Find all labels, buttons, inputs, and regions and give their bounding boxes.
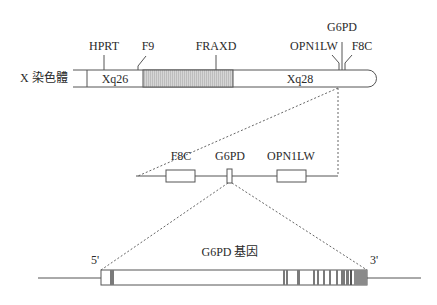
x-chromosome: Xq26 Xq28 [73, 70, 377, 87]
gene-markers: HPRT F9 FRAXD OPN1LW G6PD F8C [89, 20, 372, 70]
region-label-f8c: F8C [171, 149, 192, 163]
g6pd-gene-structure: G6PD 基因 5' 3' [38, 245, 421, 285]
gene-box-g6pd [227, 169, 232, 183]
region-label-opn1lw: OPN1LW [267, 149, 315, 163]
three-prime-label: 3' [370, 253, 378, 267]
marker-fraxd: FRAXD [196, 39, 237, 53]
marker-g6pd: G6PD [327, 20, 357, 34]
chromosome-label: X 染色體 [20, 70, 68, 85]
five-prime-label: 5' [91, 253, 99, 267]
gene-box-f8c [166, 170, 195, 182]
gene-title: G6PD 基因 [201, 245, 258, 259]
marker-f8c: F8C [352, 39, 373, 53]
marker-opn1lw: OPN1LW [290, 39, 338, 53]
region-label-g6pd: G6PD [215, 149, 245, 163]
region-map: F8C G6PD OPN1LW [136, 149, 338, 183]
g6pd-locus-diagram: X 染色體 Xq26 Xq28 HPRT F9 FRAXD OPN1LW G6P… [0, 0, 437, 305]
hatched-band [143, 70, 233, 87]
marker-hprt: HPRT [89, 39, 120, 53]
band-xq28: Xq28 [287, 72, 314, 86]
band-xq26: Xq26 [102, 72, 129, 86]
marker-f9: F9 [142, 39, 155, 53]
gene-box-opn1lw [277, 170, 306, 182]
